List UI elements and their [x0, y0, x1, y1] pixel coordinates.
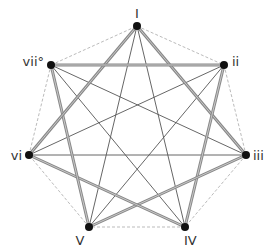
thick-edge-core-IV-vi [29, 155, 185, 227]
node-label-ii: ii [232, 54, 239, 69]
node-I [133, 22, 141, 30]
thick-edge-core-iii-V [89, 155, 246, 227]
node-label-vii: vii° [23, 54, 44, 69]
outer-heptagon-dashed-edges [29, 26, 246, 227]
dashed-edge-vii-I [51, 26, 137, 65]
node-IV [181, 223, 189, 231]
node-vii [47, 61, 55, 69]
dashed-edge-I-ii [137, 26, 224, 65]
node-label-vi: vi [11, 148, 22, 163]
chord-diagram: IiiiiiIVVvivii° [0, 0, 271, 249]
node-vi [25, 151, 33, 159]
thick-edges [29, 26, 246, 227]
node-label-IV: IV [184, 233, 197, 248]
thin-edge-vii-iii [51, 65, 246, 155]
node-label-iii: iii [253, 148, 264, 163]
node-iii [242, 151, 250, 159]
node-label-V: V [76, 233, 85, 248]
node-labels: IiiiiiIVVvivii° [11, 6, 264, 248]
thick-edge-core-I-iii [137, 26, 246, 155]
node-ii [220, 61, 228, 69]
thin-edges [29, 26, 246, 227]
thin-edge-vi-ii [29, 65, 224, 155]
node-V [85, 223, 93, 231]
node-label-I: I [135, 6, 139, 21]
nodes [25, 22, 250, 231]
